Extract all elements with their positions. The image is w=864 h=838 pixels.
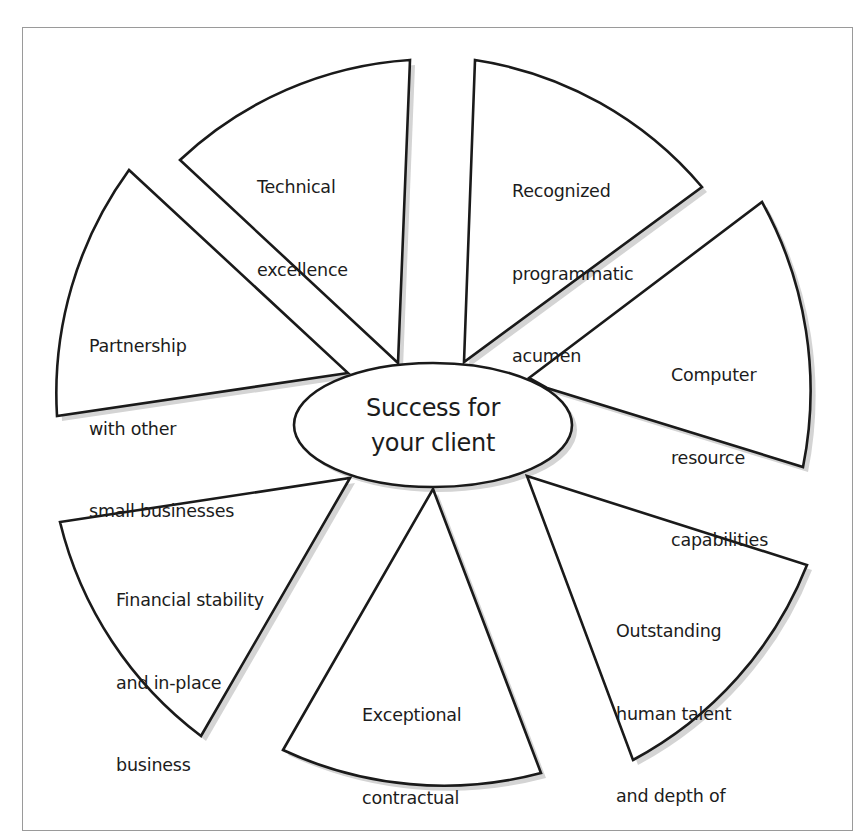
label-line: programmatic (512, 261, 633, 289)
label-line: and depth of (616, 783, 731, 811)
label-financial-stability: Financial stability and in-place busines… (116, 532, 264, 838)
label-line: and in-place (116, 670, 264, 698)
label-partnership-small-businesses: Partnership with other small businesses (89, 278, 234, 553)
label-line: human talent (616, 701, 731, 729)
label-line: contractual (362, 785, 462, 813)
center-label-line2: your client (313, 426, 553, 461)
label-line: capabilities (671, 527, 768, 555)
label-line: Partnership (89, 333, 234, 361)
label-line: excellence (257, 257, 348, 285)
label-recognized-programmatic-acumen: Recognized programmatic acumen (512, 123, 633, 398)
label-line: Exceptional (362, 702, 462, 730)
label-exceptional-contractual-experience: Exceptional contractual experience base (362, 647, 462, 838)
label-computer-resource-capabilities: Computer resource capabilities (671, 307, 768, 582)
label-technical-excellence: Technical excellence (257, 119, 348, 312)
label-line: Outstanding (616, 618, 731, 646)
label-line: resource (671, 445, 768, 473)
label-line: Financial stability (116, 587, 264, 615)
label-line: Recognized (512, 178, 633, 206)
label-line: Technical (257, 174, 348, 202)
center-label-line1: Success for (313, 391, 553, 426)
label-line: acumen (512, 343, 633, 371)
label-line: with other (89, 416, 234, 444)
label-line: Computer (671, 362, 768, 390)
label-line: processes (116, 835, 264, 838)
label-line: small businesses (89, 498, 234, 526)
label-outstanding-human-talent: Outstanding human talent and depth of re… (616, 563, 731, 838)
center-label: Success for your client (313, 391, 553, 461)
label-line: business (116, 752, 264, 780)
